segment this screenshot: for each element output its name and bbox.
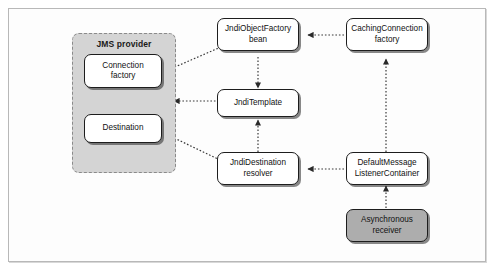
node-asynchronous-receiver-label: Asynchronous receiver [349, 215, 425, 236]
node-caching-connection-factory-label: CachingConnection factory [349, 24, 425, 45]
diagram-canvas: JMS provider Connection factory Destinat… [0, 0, 495, 270]
node-connection-factory[interactable]: Connection factory [84, 54, 162, 88]
group-jms-provider-label: JMS provider [73, 39, 175, 49]
node-jndi-template[interactable]: JndiTemplate [217, 89, 299, 117]
node-jndi-object-factory-bean[interactable]: JndiObjectFactory bean [217, 18, 299, 51]
node-destination-label: Destination [87, 123, 159, 134]
node-connection-factory-label: Connection factory [87, 61, 159, 82]
node-default-message-listener-container-label: DefaultMessage ListenerContainer [349, 158, 425, 179]
edge-jndidestinationresolver-to-destination [170, 136, 220, 160]
node-asynchronous-receiver[interactable]: Asynchronous receiver [346, 209, 428, 242]
node-jndi-object-factory-bean-label: JndiObjectFactory bean [220, 24, 296, 45]
node-jndi-destination-resolver[interactable]: JndiDestination resolver [217, 152, 299, 185]
node-jndi-destination-resolver-label: JndiDestination resolver [220, 158, 296, 179]
node-caching-connection-factory[interactable]: CachingConnection factory [346, 18, 428, 51]
node-jndi-template-label: JndiTemplate [220, 98, 296, 109]
node-default-message-listener-container[interactable]: DefaultMessage ListenerContainer [346, 152, 428, 185]
node-destination[interactable]: Destination [84, 114, 162, 143]
